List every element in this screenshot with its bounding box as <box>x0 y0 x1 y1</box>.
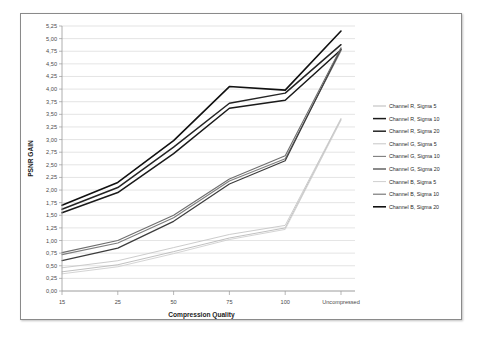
chart-frame: 0,000,250,500,751,001,251,501,752,002,25… <box>20 13 462 320</box>
y-tick-label: 0,75 <box>46 250 57 256</box>
x-tick-label: 100 <box>281 299 290 305</box>
legend-label-4: Channel G, Sigma 10 <box>389 153 440 159</box>
y-tick-label: 3,00 <box>46 137 57 143</box>
x-tick-label: Uncompressed <box>322 299 360 305</box>
y-tick-label: 4,00 <box>46 86 57 92</box>
y-tick-label: 1,00 <box>46 238 57 244</box>
y-tick-label: 2,50 <box>46 162 57 168</box>
y-tick-label: 3,75 <box>46 99 57 105</box>
series-line-7 <box>62 48 341 253</box>
legend-label-2: Channel R, Sigma 20 <box>389 128 439 134</box>
x-tick-label: 15 <box>59 299 65 305</box>
y-tick-label: 2,75 <box>46 149 57 155</box>
y-tick-label: 2,25 <box>46 174 57 180</box>
x-tick-label: 50 <box>170 299 176 305</box>
y-tick-label: 4,50 <box>46 61 57 67</box>
legend-label-6: Channel B, Sigma 5 <box>389 179 436 185</box>
y-tick-label: 1,50 <box>46 212 57 218</box>
series-line-8 <box>62 31 341 205</box>
legend-label-1: Channel R, Sigma 10 <box>389 116 439 122</box>
y-tick-label: 4,25 <box>46 73 57 79</box>
y-tick-label: 4,75 <box>46 48 57 54</box>
y-tick-label: 0,50 <box>46 263 57 269</box>
y-tick-label: 0,00 <box>46 288 57 294</box>
y-axis-title: PSNR GAIN <box>27 140 34 177</box>
y-tick-label: 5,00 <box>46 36 57 42</box>
legend-label-5: Channel G, Sigma 20 <box>389 166 440 172</box>
chart-legend: Channel R, Sigma 5Channel R, Sigma 10Cha… <box>373 103 440 210</box>
x-axis-tick-labels: 15255075100Uncompressed <box>59 291 360 305</box>
legend-label-8: Channel B, Sigma 20 <box>389 204 439 210</box>
legend-label-0: Channel R, Sigma 5 <box>389 103 436 109</box>
legend-label-3: Channel G, Sigma 5 <box>389 141 437 147</box>
psnr-gain-line-chart: 0,000,250,500,751,001,251,501,752,002,25… <box>21 14 461 319</box>
y-tick-label: 0,25 <box>46 275 57 281</box>
x-axis-title: Compression Quality <box>168 311 235 319</box>
y-tick-label: 1,25 <box>46 225 57 231</box>
y-tick-label: 5,25 <box>46 23 57 29</box>
y-tick-label: 1,75 <box>46 200 57 206</box>
y-tick-label: 3,50 <box>46 111 57 117</box>
y-tick-label: 3,25 <box>46 124 57 130</box>
legend-label-7: Channel B, Sigma 10 <box>389 191 439 197</box>
y-axis-tick-labels: 0,000,250,500,751,001,251,501,752,002,25… <box>46 23 57 294</box>
series-line-0 <box>62 119 341 271</box>
x-tick-label: 75 <box>226 299 232 305</box>
y-tick-label: 2,00 <box>46 187 57 193</box>
x-tick-label: 25 <box>115 299 121 305</box>
